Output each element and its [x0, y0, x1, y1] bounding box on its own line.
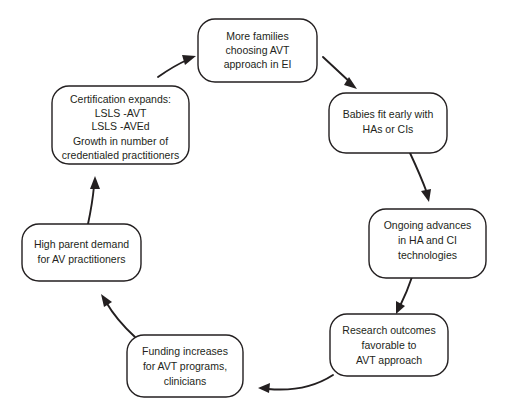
- node-funding-increases[interactable]: Funding increases for AVT programs, clin…: [127, 335, 243, 397]
- node-funding-increases-line-1: Funding increases: [142, 345, 228, 357]
- node-certification-expands-line-2: LSLS -AVT: [95, 107, 147, 119]
- diagram-canvas: More families choosing AVT approach in E…: [0, 0, 507, 418]
- node-high-parent-demand-line-2: for AV practitioners: [38, 253, 126, 265]
- node-high-parent-demand-line-1: High parent demand: [34, 238, 129, 250]
- node-certification-expands-line-1: Certification expands:: [70, 93, 171, 105]
- arrow-more-families-to-babies: [323, 57, 357, 89]
- arrow-ongoing-to-research: [396, 277, 412, 314]
- node-more-families-line-2: choosing AVT: [225, 44, 290, 56]
- arrow-certification-to-more-families: [158, 55, 196, 77]
- node-research-outcomes-line-1: Research outcomes: [342, 324, 435, 336]
- node-more-families[interactable]: More families choosing AVT approach in E…: [198, 19, 317, 82]
- cycle-diagram: More families choosing AVT approach in E…: [0, 0, 507, 418]
- node-babies-fit[interactable]: Babies fit early with HAs or CIs: [329, 93, 447, 153]
- node-research-outcomes-line-2: favorable to: [362, 339, 417, 351]
- node-research-outcomes[interactable]: Research outcomes favorable to AVT appro…: [330, 314, 448, 376]
- node-more-families-line-1: More families: [226, 30, 288, 42]
- node-certification-expands-line-4: Growth in number of: [73, 135, 168, 147]
- node-ongoing-advances-line-3: technologies: [398, 249, 457, 261]
- node-babies-fit-line-1: Babies fit early with: [343, 108, 434, 120]
- node-high-parent-demand[interactable]: High parent demand for AV practitioners: [22, 224, 141, 281]
- arrow-research-to-funding: [258, 375, 333, 393]
- node-ongoing-advances-line-1: Ongoing advances: [384, 219, 472, 231]
- node-more-families-line-3: approach in EI: [224, 58, 292, 70]
- node-babies-fit-line-2: HAs or CIs: [363, 123, 414, 135]
- node-certification-expands[interactable]: Certification expands: LSLS -AVT LSLS -A…: [52, 86, 189, 164]
- node-research-outcomes-line-3: AVT approach: [356, 354, 422, 366]
- node-ongoing-advances-line-2: in HA and CI: [398, 234, 457, 246]
- arrow-demand-to-certification: [88, 176, 100, 224]
- node-funding-increases-line-2: for AVT programs,: [143, 360, 227, 372]
- node-funding-increases-line-3: clinicians: [164, 375, 207, 387]
- arrow-babies-to-ongoing: [410, 153, 431, 202]
- node-ongoing-advances[interactable]: Ongoing advances in HA and CI technologi…: [369, 209, 486, 278]
- arrow-funding-to-demand: [101, 294, 135, 337]
- node-certification-expands-line-5: credentialed practitioners: [62, 149, 179, 161]
- node-certification-expands-line-3: LSLS -AVEd: [91, 120, 149, 132]
